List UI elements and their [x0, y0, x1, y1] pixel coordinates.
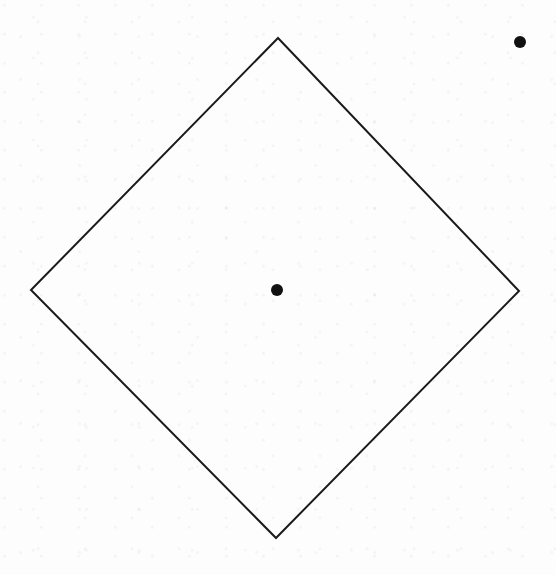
- diamond-diagram: [0, 0, 556, 575]
- diagram-canvas: [0, 0, 556, 575]
- outside-point: [514, 36, 526, 48]
- center-point: [271, 284, 283, 296]
